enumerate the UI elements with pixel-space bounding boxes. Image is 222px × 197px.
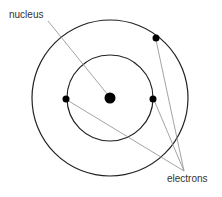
- electron-inner-left: [63, 96, 70, 103]
- nucleus: [105, 93, 116, 104]
- electron-inner-right: [150, 96, 157, 103]
- nucleus-label: nucleus: [9, 10, 43, 20]
- electron-outer-top: [153, 35, 160, 42]
- electron-leader-line-left: [67, 100, 184, 171]
- electrons-label: electrons: [167, 174, 208, 184]
- electron-leader-line-top: [156, 40, 184, 171]
- atom-diagram: [0, 0, 222, 197]
- nucleus-leader-line: [48, 21, 108, 95]
- electron-leader-line-right: [154, 100, 184, 171]
